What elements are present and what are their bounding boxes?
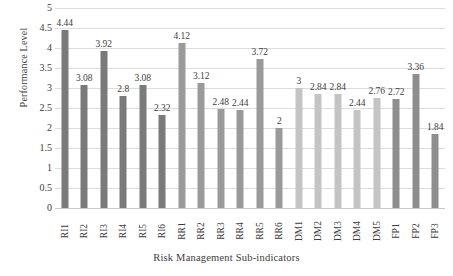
bar-slot: 2: [270, 8, 290, 208]
bar-value-label: 2.8: [117, 84, 129, 94]
bar-slot: 3.08: [133, 8, 153, 208]
bar[interactable]: [81, 85, 88, 208]
y-axis-tick-label: 5: [26, 3, 52, 13]
bar-value-label: 2: [277, 116, 282, 126]
bar-slot: 2.44: [348, 8, 368, 208]
bar[interactable]: [178, 43, 185, 208]
x-axis-tick-label: RR2: [196, 222, 206, 239]
bar[interactable]: [139, 85, 146, 208]
bar[interactable]: [100, 51, 107, 208]
bar-value-label: 2.84: [329, 82, 346, 92]
x-axis-tick-label: RI6: [157, 224, 167, 238]
bar[interactable]: [354, 110, 361, 208]
bar[interactable]: [373, 98, 380, 208]
x-axis-tick-label: RI1: [60, 224, 70, 238]
x-tick-slot: RI4: [114, 209, 134, 249]
x-tick-slot: RR6: [270, 209, 290, 249]
bar-value-label: 2.76: [368, 86, 385, 96]
x-tick-slot: RR2: [192, 209, 212, 249]
x-axis-tick-label: RR4: [235, 222, 245, 239]
y-axis-tick-label: 1: [26, 163, 52, 173]
x-axis-tick-label: RR3: [216, 222, 226, 239]
x-axis-tick-labels: RI1RI2RI3RI4RI5RI6RR1RR2RR3RR4RR5RR6DM1D…: [55, 209, 445, 249]
bar-slot: 2.84: [328, 8, 348, 208]
bar[interactable]: [159, 115, 166, 208]
bar-value-label: 2.48: [212, 97, 229, 107]
x-tick-slot: RR5: [250, 209, 270, 249]
bar[interactable]: [237, 110, 244, 208]
x-axis-tick-label: RR5: [255, 222, 265, 239]
bar-value-label: 2.72: [388, 87, 405, 97]
bar-value-label: 2.44: [232, 98, 249, 108]
bar-slot: 2.84: [309, 8, 329, 208]
x-tick-slot: DM5: [367, 209, 387, 249]
y-axis-tick-labels: 54.543.532.521.510.50: [26, 8, 52, 208]
bar-slot: 2.48: [211, 8, 231, 208]
bar-slot: 2.44: [231, 8, 251, 208]
bar-slot: 1.84: [426, 8, 446, 208]
bar[interactable]: [198, 83, 205, 208]
bar-slot: 2.32: [153, 8, 173, 208]
bar-value-label: 2.84: [310, 82, 327, 92]
x-axis-tick-label: FP3: [430, 223, 440, 238]
bar-value-label: 3.36: [407, 62, 424, 72]
bar[interactable]: [217, 109, 224, 208]
x-axis-tick-label: DM1: [294, 221, 304, 241]
bar-value-label: 2.32: [154, 103, 171, 113]
x-axis-tick-label: DM5: [372, 221, 382, 241]
y-axis-tick-label: 4.5: [26, 23, 52, 33]
y-axis-tick-label: 2: [26, 123, 52, 133]
bar-slot: 4.44: [55, 8, 75, 208]
x-tick-slot: RI1: [55, 209, 75, 249]
y-axis-tick-label: 2.5: [26, 103, 52, 113]
x-axis-tick-label: RI3: [99, 224, 109, 238]
bar[interactable]: [295, 88, 302, 208]
y-axis-tick-label: 0.5: [26, 183, 52, 193]
bar-slot: 3.08: [75, 8, 95, 208]
x-tick-slot: FP3: [426, 209, 446, 249]
x-axis-tick-label: DM4: [352, 221, 362, 241]
bar[interactable]: [315, 94, 322, 208]
y-axis-tick-label: 3: [26, 83, 52, 93]
bar-value-label: 4.12: [173, 31, 190, 41]
x-axis-tick-label: RR1: [177, 222, 187, 239]
x-tick-slot: RR1: [172, 209, 192, 249]
x-tick-slot: RI3: [94, 209, 114, 249]
x-tick-slot: RR4: [231, 209, 251, 249]
x-axis-tick-label: DM2: [313, 221, 323, 241]
bar-slot: 3.92: [94, 8, 114, 208]
bar-value-label: 3.92: [95, 39, 112, 49]
bar-slot: 4.12: [172, 8, 192, 208]
bar-slot: 3.72: [250, 8, 270, 208]
x-tick-slot: RI2: [75, 209, 95, 249]
x-axis-title: Risk Management Sub-indicators: [0, 252, 453, 263]
bar[interactable]: [276, 128, 283, 208]
bar-slot: 3.36: [406, 8, 426, 208]
bar-value-label: 3.12: [193, 71, 210, 81]
bar[interactable]: [120, 96, 127, 208]
y-axis-tick-label: 4: [26, 43, 52, 53]
bar[interactable]: [256, 59, 263, 208]
bar-slot: 2.8: [114, 8, 134, 208]
bar-value-label: 3.72: [251, 47, 268, 57]
x-tick-slot: DM4: [348, 209, 368, 249]
x-axis-tick-label: RR6: [274, 222, 284, 239]
bar[interactable]: [393, 99, 400, 208]
x-axis-tick-label: RI4: [118, 224, 128, 238]
bar[interactable]: [412, 74, 419, 208]
bar[interactable]: [61, 30, 68, 208]
bar-value-label: 1.84: [427, 122, 444, 132]
bar-value-label: 3.08: [134, 73, 151, 83]
bar-value-label: 2.44: [349, 98, 366, 108]
x-tick-slot: DM2: [309, 209, 329, 249]
x-tick-slot: RI6: [153, 209, 173, 249]
bar-chart: Performance Level 54.543.532.521.510.50 …: [0, 0, 453, 276]
bar[interactable]: [334, 94, 341, 208]
x-tick-slot: DM3: [328, 209, 348, 249]
x-axis-tick-label: FP2: [411, 223, 421, 238]
y-axis-tick-label: 1.5: [26, 143, 52, 153]
bar[interactable]: [432, 134, 439, 208]
x-axis-tick-label: FP1: [391, 223, 401, 238]
x-tick-slot: FP2: [406, 209, 426, 249]
x-tick-slot: RR3: [211, 209, 231, 249]
